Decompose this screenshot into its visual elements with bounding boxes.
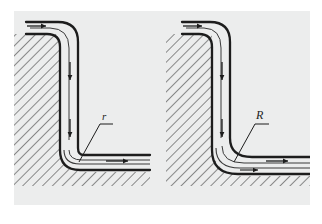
flow-arrow-vertical-upper-right [220, 62, 225, 80]
flow-arrow-vertical-upper-left [68, 62, 73, 80]
flow-arrow-vertical-lower-right [220, 119, 225, 137]
figure-root: r [0, 0, 322, 224]
flow-arrow-vertical-lower-left [68, 119, 73, 137]
label-large-radius: R [255, 108, 264, 122]
streamline-left-1 [64, 150, 150, 164]
pipe-bend-diagram: r [0, 0, 322, 224]
label-small-radius: r [102, 110, 107, 122]
diagram-small-radius: r [14, 22, 150, 186]
wall-hatching-left [14, 34, 150, 186]
leader-line-r [79, 124, 100, 162]
flow-arrow-outlet-left [106, 159, 128, 164]
diagram-large-radius: R [166, 22, 310, 186]
